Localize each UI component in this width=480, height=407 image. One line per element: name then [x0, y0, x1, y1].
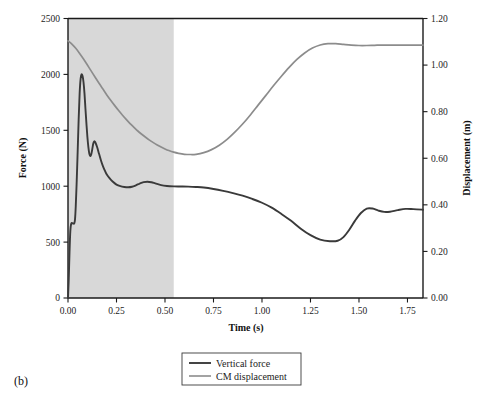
- panel-label: (b): [14, 374, 28, 388]
- secondary-y-tick-label: 1.20: [431, 14, 448, 24]
- secondary-y-tick-label: 0.60: [431, 154, 448, 164]
- y-tick-label: 500: [46, 238, 61, 248]
- legend-label-cm-displacement: CM displacement: [216, 371, 287, 382]
- secondary-y-axis-title: Displacement (m): [461, 120, 473, 195]
- y-tick-label: 2500: [41, 14, 60, 24]
- y-tick-label: 2000: [41, 70, 60, 80]
- x-tick-label: 1.25: [302, 306, 319, 316]
- x-tick-label: 1.50: [351, 306, 368, 316]
- x-axis-title: Time (s): [228, 322, 263, 334]
- chart-canvas: 0.000.250.500.751.001.251.501.7505001000…: [0, 0, 480, 407]
- secondary-y-tick-label: 1.00: [431, 60, 448, 70]
- x-tick-label: 1.00: [254, 306, 271, 316]
- secondary-y-tick-label: 0.20: [431, 247, 448, 257]
- y-tick-label: 1500: [41, 126, 60, 136]
- legend-label-vertical-force: Vertical force: [216, 358, 271, 369]
- y-tick-label: 0: [55, 293, 60, 303]
- x-tick-label: 0.00: [60, 306, 77, 316]
- figure-panel: 0.000.250.500.751.001.251.501.7505001000…: [0, 0, 480, 407]
- x-tick-label: 0.25: [108, 306, 125, 316]
- x-tick-label: 0.75: [205, 306, 222, 316]
- secondary-y-tick-label: 0.00: [431, 293, 448, 303]
- x-tick-label: 0.50: [157, 306, 174, 316]
- y-axis-title: Force (N): [17, 138, 29, 179]
- chart-legend: Vertical force CM displacement: [182, 353, 301, 385]
- secondary-y-tick-label: 0.80: [431, 107, 448, 117]
- y-tick-label: 1000: [41, 182, 60, 192]
- x-tick-label: 1.75: [399, 306, 416, 316]
- secondary-y-tick-label: 0.40: [431, 200, 448, 210]
